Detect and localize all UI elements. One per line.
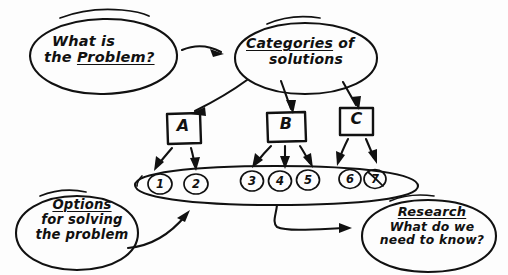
edge-categories-to-box-b <box>281 81 296 114</box>
node-categories-line1-plain: of <box>333 35 354 51</box>
edge-box-c-to-item-6 <box>336 139 348 166</box>
node-options-line2: for solving <box>28 213 136 228</box>
item-3-label: 3 <box>244 175 260 188</box>
node-research-label: Research What do we need to know? <box>374 205 490 247</box>
edge-solutions-band-to-research <box>275 205 352 233</box>
node-categories-line1-underlined: Categories <box>246 35 333 51</box>
item-4-label: 4 <box>272 175 288 188</box>
edge-box-b-to-item-5 <box>300 146 313 168</box>
node-box-b-label: B <box>267 115 305 133</box>
edge-box-a-to-item-1 <box>154 148 172 171</box>
node-categories-label: Categories of solutions <box>238 36 374 67</box>
node-options-label: Options for solving the problem <box>28 198 136 242</box>
node-problem-label: What is the Problem? <box>38 33 168 65</box>
node-box-c-label: C <box>340 110 373 128</box>
node-research-line2: What do we <box>374 220 490 234</box>
item-1-label: 1 <box>152 178 168 191</box>
item-2-label: 2 <box>188 178 204 191</box>
sketch-canvas: What is the Problem? Categories of solut… <box>0 0 508 275</box>
edge-box-b-to-item-3 <box>252 146 271 168</box>
node-categories-line2: solutions <box>238 52 374 68</box>
item-5-label: 5 <box>300 174 316 187</box>
node-research-line1: Research <box>374 205 490 220</box>
edge-categories-to-box-a <box>190 80 247 116</box>
node-problem-line2-plain: the <box>44 49 77 65</box>
node-box-a-label: A <box>166 117 200 135</box>
item-7-label: 7 <box>367 173 383 186</box>
item-6-label: 6 <box>342 173 358 186</box>
node-options-line1: Options <box>28 198 136 213</box>
node-problem-line2-underlined: Problem? <box>77 49 155 65</box>
node-problem-line1: What is <box>38 33 168 49</box>
edge-box-c-to-item-7 <box>366 139 377 164</box>
node-categories-line1: Categories of <box>238 36 374 52</box>
node-research-line3: need to know? <box>374 233 490 247</box>
node-options-line3: the problem <box>28 228 136 243</box>
node-problem-line2: the Problem? <box>38 49 168 65</box>
edge-problem-to-categories <box>182 46 224 57</box>
